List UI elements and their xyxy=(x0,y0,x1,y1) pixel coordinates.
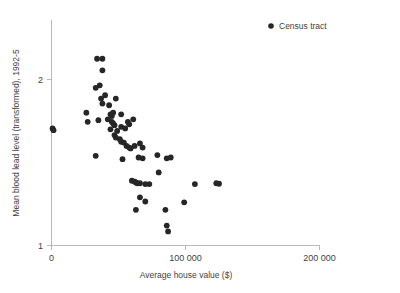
data-point xyxy=(94,56,100,62)
y-axis-ticks: 1 2 xyxy=(38,75,52,251)
chart-legend: Census tract xyxy=(268,21,327,31)
data-point xyxy=(106,102,112,108)
scatter-chart-figure: 1 2 0 100 000 200 000 Average house valu… xyxy=(0,0,400,293)
data-point xyxy=(137,194,143,200)
data-point xyxy=(140,145,146,151)
legend-label: Census tract xyxy=(279,21,327,31)
data-point xyxy=(83,110,89,116)
legend-marker-icon xyxy=(268,23,274,29)
data-points-group xyxy=(50,56,222,234)
data-point xyxy=(100,56,106,62)
y-tick-label: 1 xyxy=(38,241,43,251)
data-point xyxy=(97,82,103,88)
data-point xyxy=(181,199,187,205)
data-point xyxy=(100,101,106,107)
data-point xyxy=(142,199,148,205)
data-point xyxy=(140,155,146,161)
x-axis-ticks: 0 100 000 200 000 xyxy=(49,246,336,264)
x-tick-label: 100 000 xyxy=(169,253,202,263)
data-point xyxy=(146,181,152,187)
x-tick-label: 0 xyxy=(49,253,54,263)
data-point xyxy=(102,92,108,98)
data-point xyxy=(118,111,124,117)
data-point xyxy=(110,110,116,116)
data-point xyxy=(100,67,106,73)
data-point xyxy=(192,181,198,187)
data-point xyxy=(122,126,128,132)
data-point xyxy=(108,126,114,132)
data-point xyxy=(96,117,102,123)
data-point xyxy=(163,207,169,213)
y-axis-title: Mean blood lead level (transformed), 199… xyxy=(11,49,21,217)
plot-area: 1 2 0 100 000 200 000 Average house valu… xyxy=(0,0,400,293)
data-point xyxy=(133,207,139,213)
data-point xyxy=(168,155,174,161)
data-point xyxy=(216,181,222,187)
data-point xyxy=(137,180,143,186)
data-point xyxy=(154,152,160,158)
data-point xyxy=(120,156,126,162)
data-point xyxy=(132,143,138,149)
data-point xyxy=(85,119,91,125)
data-point xyxy=(126,121,132,127)
data-point xyxy=(156,170,162,176)
y-tick-label: 2 xyxy=(38,75,43,85)
data-point xyxy=(93,153,99,159)
data-point xyxy=(164,223,170,229)
data-point xyxy=(112,122,118,128)
data-point xyxy=(51,127,57,133)
data-point xyxy=(130,116,136,122)
data-point xyxy=(165,228,171,234)
data-point xyxy=(113,96,119,102)
x-axis-title: Average house value ($) xyxy=(140,270,233,280)
x-tick-label: 200 000 xyxy=(303,253,336,263)
